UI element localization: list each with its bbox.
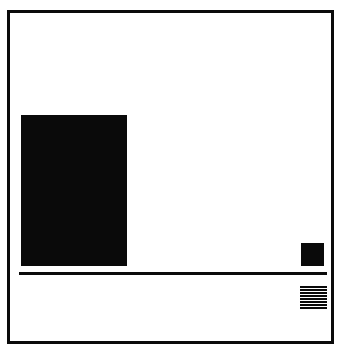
hatch-stripe	[300, 304, 327, 306]
hatch-stripe	[300, 289, 327, 291]
hatch-stripe	[300, 307, 327, 309]
small-black-square	[301, 243, 324, 266]
hatch-stripe	[300, 292, 327, 294]
horizontal-rule	[19, 272, 327, 275]
composition-canvas	[0, 0, 348, 353]
hatch-stripe	[300, 286, 327, 288]
hatch-stripe	[300, 301, 327, 303]
large-black-rectangle	[21, 115, 127, 266]
striped-hatch-block	[300, 286, 327, 309]
hatch-stripe	[300, 298, 327, 300]
hatch-stripe	[300, 295, 327, 297]
